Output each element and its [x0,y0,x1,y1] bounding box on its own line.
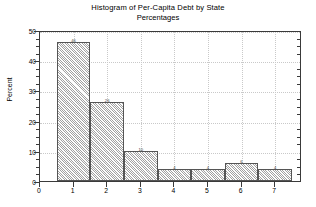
y-tickmark-minor [36,174,39,175]
x-tickmark [140,182,141,187]
y-tickmark [34,152,39,153]
gridline-vertical [275,32,276,181]
right-spine-tickmark [297,46,301,47]
right-spine-tickmark [297,144,301,145]
gridline-vertical [208,32,209,181]
y-tickmark-minor [36,54,39,55]
y-tickmark-minor [36,76,39,77]
y-tickmark-minor [36,99,39,100]
y-tickmark-minor [36,137,39,138]
y-axis-tick-labels: 01020304050 [16,31,36,182]
x-tickmark [274,182,275,187]
x-tick-label: 6 [239,187,243,194]
y-axis-title: Percent [6,60,13,120]
x-tick-label: 5 [205,187,209,194]
x-tickmark [241,182,242,187]
bar-value-label: 10 [138,147,143,152]
y-tickmark [34,122,39,123]
x-tick-label: 3 [138,187,142,194]
histogram-bar [158,169,192,181]
histogram-bar [124,151,158,181]
x-tickmark [73,182,74,187]
y-tickmark-minor [36,129,39,130]
right-spine-tickmark [297,159,301,160]
gridline-vertical [174,32,175,181]
bar-value-label: 4 [207,165,209,170]
right-spine-tickmark [297,54,301,55]
y-tickmark-minor [36,69,39,70]
right-spine-tickmark [297,174,301,175]
y-tickmark [34,91,39,92]
right-spine-tickmark [297,84,301,85]
x-tick-label: 2 [104,187,108,194]
y-tickmark-minor [36,167,39,168]
histogram-bar [57,42,91,181]
x-tickmark [207,182,208,187]
right-spine-tickmark [297,167,301,168]
y-tickmark-minor [36,39,39,40]
title-block: Histogram of Per-Capita Debt by State Pe… [0,3,316,23]
bar-value-label: 4 [274,165,276,170]
x-tick-label: 1 [71,187,75,194]
y-tickmark-minor [36,114,39,115]
bar-value-label: 4 [173,165,175,170]
right-spine-tickmark [297,99,301,100]
y-tickmark [34,31,39,32]
y-tickmark-minor [36,107,39,108]
bar-value-label: 46 [71,38,76,43]
right-spine-tickmark [297,69,301,70]
right-spine-tickmark [297,129,301,130]
x-axis-tick-labels: 01234567 [39,187,301,199]
right-spine-tickmark [297,137,301,138]
histogram-figure: Histogram of Per-Capita Debt by State Pe… [0,0,316,207]
histogram-bar [225,163,259,181]
y-tickmark-minor [36,84,39,85]
plot-area: 4626104464 [39,31,301,182]
histogram-bar [191,169,225,181]
chart-title: Histogram of Per-Capita Debt by State [0,3,316,13]
bar-value-label: 6 [240,159,242,164]
x-tickmark [106,182,107,187]
x-tickmark [39,182,40,187]
x-tick-label: 4 [171,187,175,194]
histogram-bar [258,169,292,181]
x-tick-label: 0 [37,187,41,194]
chart-subtitle: Percentages [0,13,316,23]
bar-value-label: 26 [105,98,110,103]
y-tickmark [34,61,39,62]
right-spine-tickmark [297,39,301,40]
y-tickmark-minor [36,46,39,47]
right-spine-tickmark [297,107,301,108]
right-spine-tickmark [297,114,301,115]
right-spine-tickmark [297,76,301,77]
x-tickmark [173,182,174,187]
y-tickmark-minor [36,159,39,160]
gridline-horizontal [40,32,300,33]
x-tick-label: 7 [272,187,276,194]
y-tickmark-minor [36,144,39,145]
histogram-bar [90,102,124,181]
